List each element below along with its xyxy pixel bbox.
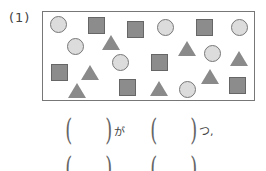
circle-icon — [50, 16, 67, 33]
circle-icon — [204, 45, 221, 62]
triangle-icon — [178, 41, 196, 56]
close-paren: ) — [105, 150, 112, 171]
square-icon — [196, 19, 213, 36]
triangle-icon — [68, 83, 86, 98]
triangle-icon — [201, 69, 219, 84]
close-paren: ) — [105, 112, 112, 147]
counter-tsu: つ, — [199, 122, 214, 138]
square-icon — [51, 64, 68, 81]
square-icon — [127, 21, 144, 38]
triangle-icon — [230, 51, 248, 66]
circle-icon — [112, 54, 129, 71]
problem-number: (1) — [9, 10, 30, 25]
triangle-icon — [102, 35, 120, 50]
close-paren: ) — [190, 150, 197, 171]
square-icon — [151, 54, 168, 71]
square-icon — [88, 17, 105, 34]
circle-icon — [231, 19, 248, 36]
particle-ga: が — [114, 123, 125, 139]
circle-icon — [67, 38, 84, 55]
open-paren: ( — [65, 112, 72, 147]
close-paren: ) — [190, 112, 197, 147]
triangle-icon — [150, 81, 168, 96]
open-paren: ( — [150, 150, 157, 171]
circle-icon — [179, 81, 196, 98]
open-paren: ( — [150, 112, 157, 147]
triangle-icon — [81, 65, 99, 80]
square-icon — [229, 77, 246, 94]
open-paren: ( — [65, 150, 72, 171]
circle-icon — [157, 19, 174, 36]
square-icon — [119, 79, 136, 96]
